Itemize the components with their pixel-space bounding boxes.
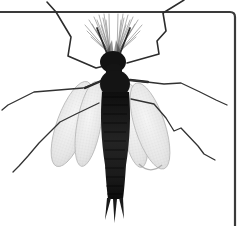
illustration-canvas: Stipple-engraved black and white illustr… xyxy=(0,0,240,226)
insect-engraving: Stipple-engraved black and white illustr… xyxy=(0,0,240,226)
tail-filament-middle xyxy=(113,199,117,223)
tail-filament-right xyxy=(119,198,124,219)
tail-filament-left xyxy=(105,198,111,220)
insect xyxy=(2,0,227,223)
antenna-plume-left xyxy=(85,14,110,56)
body xyxy=(100,40,130,223)
antenna-plume-right xyxy=(117,14,142,56)
abdomen xyxy=(101,92,130,199)
tail-filaments xyxy=(105,198,124,223)
right-foreleg xyxy=(127,0,184,63)
